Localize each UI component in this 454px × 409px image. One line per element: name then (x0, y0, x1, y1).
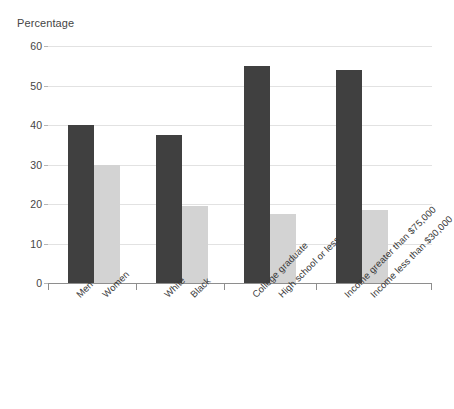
y-tick-mark-40 (44, 125, 48, 126)
y-tick-mark-0 (44, 283, 48, 284)
bar-college-graduate (244, 66, 270, 283)
y-tick-mark-30 (44, 165, 48, 166)
y-axis-tick-labels: 0102030405060 (14, 46, 42, 283)
bar-white (156, 135, 182, 283)
plot-area (48, 46, 432, 283)
gridline-50 (48, 86, 432, 87)
gridline-60 (48, 46, 432, 47)
y-tick-label-60: 60 (16, 41, 42, 52)
bar-black (182, 206, 208, 283)
y-tick-mark-50 (44, 86, 48, 87)
y-tick-label-40: 40 (16, 120, 42, 131)
y-tick-label-30: 30 (16, 160, 42, 171)
bar-men (68, 125, 94, 283)
x-axis-category-labels: MenWomenWhiteBlackCollege graduateHigh s… (0, 283, 450, 409)
gridline-40 (48, 125, 432, 126)
y-tick-label-10: 10 (16, 239, 42, 250)
bar-income-greater-than-75-000 (336, 70, 362, 283)
y-axis-title: Percentage (17, 17, 74, 29)
y-tick-mark-10 (44, 244, 48, 245)
y-tick-mark-60 (44, 46, 48, 47)
y-tick-mark-20 (44, 204, 48, 205)
y-tick-label-20: 20 (16, 199, 42, 210)
y-tick-label-50: 50 (16, 81, 42, 92)
bar-women (94, 165, 120, 284)
